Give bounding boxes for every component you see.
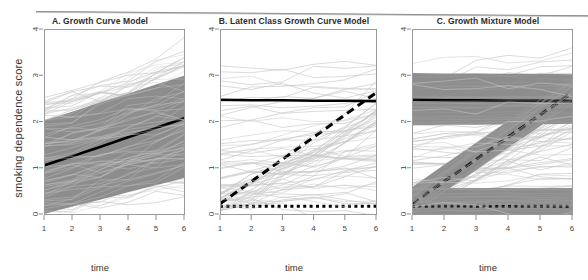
svg-text:3: 3: [399, 72, 408, 77]
panel-b-plot: 12345601234: [196, 0, 392, 280]
svg-text:2: 2: [249, 224, 254, 233]
svg-text:4: 4: [207, 26, 216, 31]
svg-text:5: 5: [343, 224, 348, 233]
panel-c-title: C. Growth Mixture Model: [388, 16, 588, 26]
svg-text:3: 3: [207, 72, 216, 77]
svg-text:2: 2: [207, 119, 216, 124]
svg-text:2: 2: [70, 224, 75, 233]
svg-text:1: 1: [399, 165, 408, 170]
svg-text:2: 2: [31, 119, 40, 124]
svg-text:4: 4: [31, 26, 40, 31]
svg-text:0: 0: [399, 211, 408, 216]
y-axis-label: smoking dependence score: [12, 58, 24, 197]
svg-text:5: 5: [154, 224, 159, 233]
svg-text:1: 1: [410, 224, 415, 233]
svg-text:1: 1: [218, 224, 223, 233]
panel-c-plot: 12345601234: [388, 0, 588, 280]
svg-text:6: 6: [570, 224, 575, 233]
svg-text:4: 4: [506, 224, 511, 233]
panel-c-x-axis-label: time: [388, 262, 588, 273]
svg-text:1: 1: [207, 165, 216, 170]
svg-text:3: 3: [474, 224, 479, 233]
svg-text:6: 6: [182, 224, 187, 233]
svg-text:3: 3: [98, 224, 103, 233]
panel-a-x-axis-label: time: [0, 262, 200, 273]
svg-text:2: 2: [399, 119, 408, 124]
panel-a-plot: 12345601234: [0, 0, 200, 280]
panel-growth-mixture-model: C. Growth Mixture Model 12345601234 time: [388, 0, 588, 280]
svg-text:4: 4: [311, 224, 316, 233]
panel-b-x-axis-label: time: [196, 262, 392, 273]
svg-text:0: 0: [207, 211, 216, 216]
panel-latent-class-growth-curve-model: B. Latent Class Growth Curve Model 12345…: [196, 0, 392, 280]
svg-text:0: 0: [31, 211, 40, 216]
svg-text:1: 1: [42, 224, 47, 233]
svg-text:6: 6: [374, 224, 379, 233]
svg-text:3: 3: [280, 224, 285, 233]
figure-canvas: A. Growth Curve Model smoking dependence…: [0, 0, 588, 280]
svg-text:5: 5: [538, 224, 543, 233]
svg-text:2: 2: [442, 224, 447, 233]
panel-a-title: A. Growth Curve Model: [0, 16, 200, 26]
svg-text:4: 4: [399, 26, 408, 31]
svg-text:1: 1: [31, 165, 40, 170]
svg-text:4: 4: [126, 224, 131, 233]
panel-growth-curve-model: A. Growth Curve Model smoking dependence…: [0, 0, 200, 280]
panel-b-title: B. Latent Class Growth Curve Model: [196, 16, 392, 26]
svg-text:3: 3: [31, 72, 40, 77]
